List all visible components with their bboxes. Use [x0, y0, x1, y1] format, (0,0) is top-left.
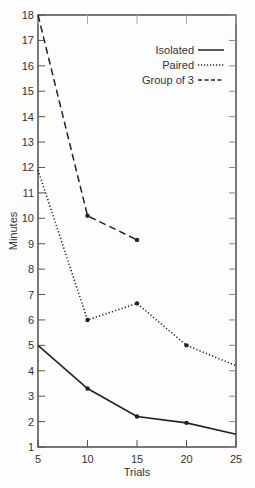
data-point: [184, 343, 188, 347]
y-tick-label: 12: [22, 161, 34, 173]
y-tick-label: 2: [28, 416, 34, 428]
y-tick-label: 7: [28, 289, 34, 301]
data-point: [85, 386, 89, 390]
y-tick-label: 18: [22, 9, 34, 21]
y-tick-label: 13: [22, 136, 34, 148]
x-tick-label: 20: [180, 453, 192, 465]
data-point: [85, 318, 89, 322]
y-tick-label: 16: [22, 60, 34, 72]
x-tick-label: 5: [35, 453, 41, 465]
x-axis-title: Trials: [124, 466, 151, 478]
y-tick-label: 15: [22, 85, 34, 97]
y-tick-label: 10: [22, 212, 34, 224]
data-point: [135, 414, 139, 418]
data-point: [184, 421, 188, 425]
series-line-isolated: [38, 345, 236, 434]
y-tick-label: 5: [28, 339, 34, 351]
x-tick-label: 10: [81, 453, 93, 465]
y-axis-title: Minutes: [7, 211, 19, 250]
data-point: [135, 238, 139, 242]
x-tick-label: 15: [131, 453, 143, 465]
data-point: [135, 301, 139, 305]
legend-label: Group of 3: [142, 74, 194, 86]
legend-label: Isolated: [155, 44, 194, 56]
x-tick-label: 25: [230, 453, 242, 465]
y-tick-label: 6: [28, 314, 34, 326]
series-line-group-of-3: [38, 15, 137, 240]
legend-label: Paired: [162, 59, 194, 71]
y-tick-label: 9: [28, 238, 34, 250]
line-chart: 123456789101112131415161718510152025Tria…: [0, 0, 255, 488]
data-point: [85, 214, 89, 218]
y-tick-label: 14: [22, 111, 34, 123]
y-tick-label: 4: [28, 365, 34, 377]
y-tick-label: 17: [22, 34, 34, 46]
y-tick-label: 11: [23, 187, 34, 199]
y-tick-label: 3: [28, 390, 34, 402]
y-tick-label: 1: [28, 441, 34, 453]
series-line-paired: [38, 170, 236, 366]
y-tick-label: 8: [28, 263, 34, 275]
